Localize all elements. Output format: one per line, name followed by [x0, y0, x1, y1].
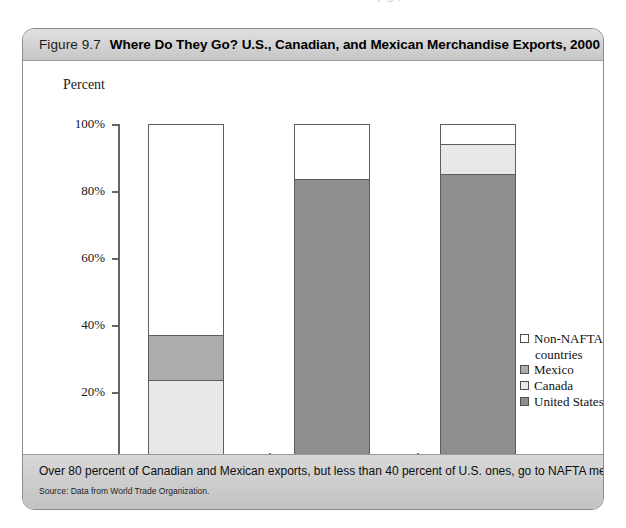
legend-swatch-non-nafta-icon [520, 334, 529, 343]
stacked-bar-2 [440, 124, 516, 459]
stacked-bar-1 [294, 124, 370, 459]
y-axis-title: Percent [63, 77, 105, 93]
legend-swatch-united-states-icon [520, 397, 529, 406]
figure-container: Figure 9.7 Where Do They Go? U.S., Canad… [22, 28, 604, 510]
cut-off-text-line: continued on the page, a lot of the text… [305, 0, 552, 2]
legend-item-mexico: Mexico [520, 362, 604, 377]
bar-segment-united-states [440, 174, 516, 459]
figure-number: Figure 9.7 [39, 37, 101, 52]
chart-legend: Non-NAFTA countries Mexico Canada United… [520, 331, 604, 410]
figure-caption: Over 80 percent of Canadian and Mexican … [39, 464, 587, 478]
bar-segment-non-nafta-countries [440, 124, 516, 144]
legend-label-canada: Canada [534, 378, 573, 393]
legend-item-canada: Canada [520, 378, 604, 393]
y-tick-label-60: 60% [59, 250, 105, 266]
bar-segment-non-nafta-countries [148, 124, 224, 335]
figure-source: Source: Data from World Trade Organizati… [39, 486, 587, 496]
legend-item-united-states: United States [520, 394, 604, 409]
figure-title: Where Do They Go? U.S., Canadian, and Me… [110, 37, 600, 52]
bar-segment-mexico [148, 335, 224, 380]
stacked-bar-0 [148, 124, 224, 459]
legend-swatch-canada-icon [520, 381, 529, 390]
chart-plot-area: Percent 100% 80% 60% 40% 20% 0% [23, 61, 603, 456]
y-tick-label-80: 80% [59, 183, 105, 199]
bar-segment-non-nafta-countries [294, 124, 370, 179]
figure-caption-band: Over 80 percent of Canadian and Mexican … [23, 454, 603, 509]
legend-label-non-nafta-line2: countries [535, 347, 604, 362]
bar-segment-canada [440, 144, 516, 174]
bars-layer [118, 124, 586, 459]
bar-segment-canada [148, 380, 224, 459]
legend-label-non-nafta: Non-NAFTA [534, 331, 603, 346]
figure-title-bar: Figure 9.7 Where Do They Go? U.S., Canad… [23, 29, 603, 61]
legend-item-non-nafta: Non-NAFTA [520, 331, 604, 346]
y-tick-label-40: 40% [59, 317, 105, 333]
legend-label-mexico: Mexico [534, 362, 574, 377]
page-top-cut-text: continued on the page, a lot of the text… [0, 0, 626, 14]
legend-swatch-mexico-icon [520, 365, 529, 374]
y-tick-label-20: 20% [59, 384, 105, 400]
legend-label-united-states: United States [534, 394, 604, 409]
bar-segment-united-states [294, 179, 370, 459]
y-tick-label-100: 100% [59, 116, 105, 132]
